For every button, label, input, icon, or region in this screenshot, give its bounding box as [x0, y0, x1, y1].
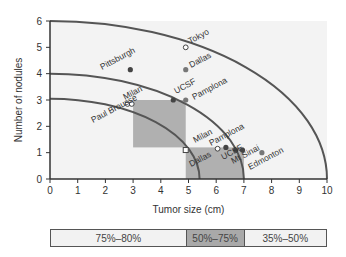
legend-label: 35%–50% — [262, 233, 308, 244]
legend-label: 75%–80% — [96, 233, 142, 244]
x-tick-label: 3 — [130, 185, 136, 196]
legend-segment-mid: 50%–75% — [186, 230, 244, 246]
x-tick-label: 4 — [158, 185, 164, 196]
data-point — [183, 148, 188, 153]
x-tick-label: 10 — [321, 185, 333, 196]
y-tick-label: 2 — [36, 121, 42, 132]
x-tick-label: 6 — [213, 185, 219, 196]
x-tick-label: 1 — [75, 185, 81, 196]
y-tick-label: 0 — [36, 174, 42, 185]
x-tick-label: 9 — [297, 185, 303, 196]
survival-legend-bar: 75%–80% 50%–75% 35%–50% — [50, 229, 327, 247]
x-tick-label: 2 — [103, 185, 109, 196]
x-tick-label: 5 — [186, 185, 192, 196]
data-point — [183, 67, 188, 72]
y-tick-label: 6 — [36, 16, 42, 27]
y-tick-label: 5 — [36, 42, 42, 53]
x-tick-label: 0 — [47, 185, 53, 196]
y-tick-label: 4 — [36, 68, 42, 79]
x-axis-label: Tumor size (cm) — [153, 204, 225, 215]
x-tick-label: 8 — [269, 185, 275, 196]
legend-label: 50%–75% — [192, 233, 238, 244]
y-tick-label: 1 — [36, 147, 42, 158]
data-point — [215, 146, 220, 151]
y-tick-label: 3 — [36, 95, 42, 106]
legend-segment-low: 75%–80% — [51, 230, 186, 246]
data-point — [183, 45, 188, 50]
data-point — [128, 67, 133, 72]
data-point — [183, 97, 188, 102]
data-point — [171, 97, 176, 102]
y-axis-label: Number of nodules — [13, 58, 24, 143]
legend-segment-high: 35%–50% — [244, 230, 327, 246]
x-tick-label: 7 — [241, 185, 247, 196]
chart: 0123456789100123456Tumor size (cm)Number… — [0, 0, 346, 257]
